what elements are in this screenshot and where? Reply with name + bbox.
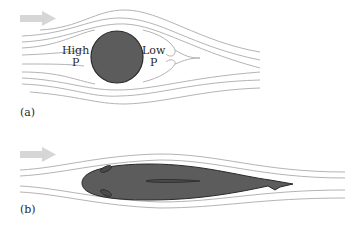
panel-a-label: (a)	[20, 106, 35, 119]
high-pressure-label: High P	[62, 45, 89, 69]
flow-arrow-a	[20, 11, 56, 26]
flow-diagram	[0, 0, 361, 231]
cylinder	[91, 31, 143, 83]
high-p-text: P	[62, 57, 89, 69]
panel-b-label: (b)	[20, 203, 36, 216]
low-p-text: P	[142, 57, 165, 69]
flow-arrow-b	[20, 147, 56, 162]
low-pressure-label: Low P	[142, 45, 165, 69]
